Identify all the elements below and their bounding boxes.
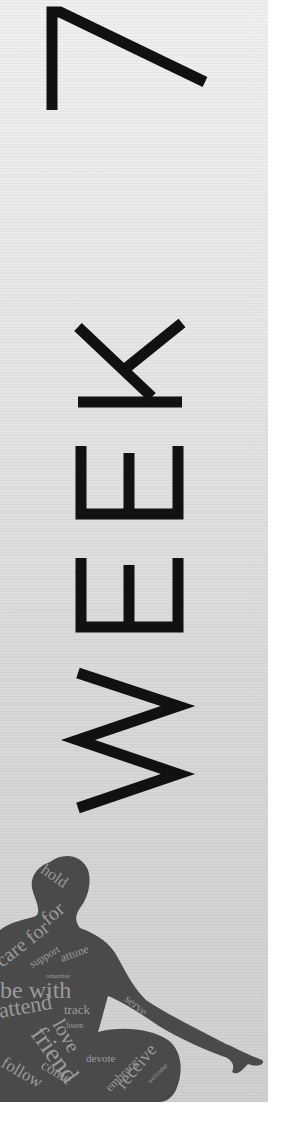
letter-e-upper: [81, 446, 178, 514]
title-panel: ....................................... …: [0, 0, 268, 1102]
numeral-seven: [52, 12, 205, 110]
week-title-graphic: [0, 0, 268, 830]
letter-w: [78, 673, 178, 808]
word: listen: [66, 1021, 83, 1030]
meditating-figure: hold for care for support attune remembe…: [0, 850, 268, 1102]
letter-e-lower: [81, 558, 178, 627]
letter-k: [78, 323, 182, 402]
word: devote: [86, 1052, 115, 1064]
